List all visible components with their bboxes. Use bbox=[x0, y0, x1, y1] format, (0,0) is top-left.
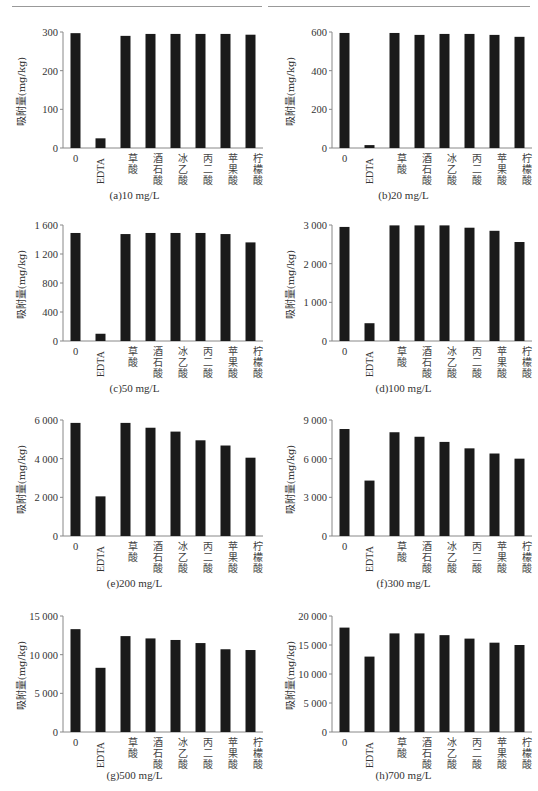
bar bbox=[246, 650, 256, 732]
svg-text:果: 果 bbox=[497, 552, 507, 563]
svg-text:酒: 酒 bbox=[153, 737, 163, 748]
x-tick-label: 0 bbox=[73, 346, 78, 357]
svg-text:果: 果 bbox=[228, 552, 238, 563]
chart-panel-h: 吸附量(mg/kg) 05 00010 00015 00020 0000EDTA… bbox=[269, 598, 538, 788]
bar bbox=[121, 234, 131, 341]
svg-text:柠: 柠 bbox=[253, 540, 263, 552]
y-tick-label: 6 000 bbox=[303, 454, 327, 465]
svg-text:EDTA: EDTA bbox=[95, 741, 106, 768]
svg-text:石: 石 bbox=[422, 552, 432, 563]
svg-text:石: 石 bbox=[422, 164, 432, 175]
x-tick-label: 苹果酸 bbox=[228, 540, 238, 574]
svg-text:EDTA: EDTA bbox=[95, 350, 106, 377]
svg-text:0: 0 bbox=[73, 346, 78, 357]
svg-text:酒: 酒 bbox=[153, 153, 163, 164]
x-tick-label: 酒石酸 bbox=[153, 737, 163, 770]
svg-text:苹: 苹 bbox=[228, 540, 238, 552]
svg-text:草: 草 bbox=[397, 153, 407, 164]
x-tick-label: 草酸 bbox=[128, 346, 138, 368]
svg-text:EDTA: EDTA bbox=[364, 157, 375, 184]
svg-text:丙: 丙 bbox=[472, 737, 482, 748]
bar-chart: 05 00010 00015 0000EDTA草酸酒石酸冰乙酸丙二酸苹果酸柠檬酸 bbox=[0, 598, 269, 774]
svg-text:酸: 酸 bbox=[497, 367, 507, 379]
x-tick-label: 草酸 bbox=[397, 346, 407, 368]
svg-text:檬: 檬 bbox=[522, 748, 532, 759]
bar bbox=[515, 37, 525, 148]
svg-text:石: 石 bbox=[153, 748, 163, 759]
panel-caption: (d)100 mg/L bbox=[269, 382, 538, 394]
x-tick-label: EDTA bbox=[95, 545, 106, 572]
svg-text:柠: 柠 bbox=[522, 345, 532, 357]
bar bbox=[71, 629, 81, 732]
y-tick-label: 400 bbox=[42, 307, 58, 318]
bar bbox=[96, 138, 106, 148]
bar bbox=[490, 231, 500, 341]
chart-panel-e: 吸附量(mg/kg) 02 0004 0006 0000EDTA草酸酒石酸冰乙酸… bbox=[0, 402, 269, 592]
svg-text:二: 二 bbox=[472, 748, 482, 759]
svg-text:酒: 酒 bbox=[422, 153, 432, 164]
svg-text:苹: 苹 bbox=[228, 736, 238, 748]
svg-text:檬: 檬 bbox=[522, 164, 532, 175]
svg-text:石: 石 bbox=[153, 164, 163, 175]
svg-text:酸: 酸 bbox=[153, 174, 163, 186]
svg-text:丙: 丙 bbox=[203, 346, 213, 357]
y-tick-label: 0 bbox=[53, 143, 58, 154]
svg-text:酸: 酸 bbox=[153, 367, 163, 379]
svg-text:酒: 酒 bbox=[422, 737, 432, 748]
svg-text:草: 草 bbox=[397, 541, 407, 552]
svg-text:二: 二 bbox=[203, 164, 213, 175]
x-tick-label: 丙二酸 bbox=[472, 153, 482, 186]
bar bbox=[440, 635, 450, 732]
bar bbox=[196, 643, 206, 732]
y-tick-label: 800 bbox=[42, 278, 58, 289]
top-rule-left bbox=[12, 6, 262, 7]
svg-text:乙: 乙 bbox=[178, 748, 188, 759]
bar bbox=[515, 645, 525, 732]
svg-text:酸: 酸 bbox=[447, 367, 457, 379]
svg-text:果: 果 bbox=[228, 357, 238, 368]
svg-text:酸: 酸 bbox=[128, 551, 138, 563]
svg-text:二: 二 bbox=[472, 552, 482, 563]
x-tick-label: 丙二酸 bbox=[472, 346, 482, 379]
svg-text:酸: 酸 bbox=[128, 747, 138, 759]
x-tick-label: 苹果酸 bbox=[497, 540, 507, 574]
svg-text:酸: 酸 bbox=[397, 747, 407, 759]
x-tick-label: 草酸 bbox=[397, 541, 407, 563]
panel-caption: (f)300 mg/L bbox=[269, 577, 538, 589]
svg-text:苹: 苹 bbox=[497, 540, 507, 552]
svg-text:酸: 酸 bbox=[397, 551, 407, 563]
svg-text:二: 二 bbox=[472, 164, 482, 175]
bar bbox=[121, 36, 131, 148]
svg-text:冰: 冰 bbox=[447, 345, 457, 357]
y-tick-label: 200 bbox=[42, 66, 58, 77]
bar bbox=[340, 227, 350, 341]
x-tick-label: 苹果酸 bbox=[497, 736, 507, 770]
svg-text:柠: 柠 bbox=[522, 540, 532, 552]
bar bbox=[71, 233, 81, 341]
bar bbox=[490, 35, 500, 148]
bar bbox=[440, 34, 450, 148]
svg-text:0: 0 bbox=[342, 346, 347, 357]
svg-text:酸: 酸 bbox=[397, 163, 407, 175]
svg-text:酸: 酸 bbox=[522, 562, 532, 574]
y-tick-label: 0 bbox=[322, 143, 327, 154]
x-tick-label: 柠檬酸 bbox=[253, 152, 263, 186]
x-tick-label: 冰乙酸 bbox=[447, 152, 457, 186]
svg-text:乙: 乙 bbox=[447, 164, 457, 175]
svg-text:冰: 冰 bbox=[178, 152, 188, 164]
svg-text:乙: 乙 bbox=[447, 552, 457, 563]
svg-text:酸: 酸 bbox=[447, 174, 457, 186]
svg-text:EDTA: EDTA bbox=[364, 545, 375, 572]
panel-caption: (h)700 mg/L bbox=[269, 769, 538, 781]
svg-text:酸: 酸 bbox=[228, 562, 238, 574]
bar bbox=[246, 242, 256, 341]
bar bbox=[146, 34, 156, 148]
bar bbox=[121, 423, 131, 536]
x-tick-label: 丙二酸 bbox=[472, 541, 482, 574]
y-tick-label: 10 000 bbox=[29, 650, 58, 661]
svg-text:EDTA: EDTA bbox=[95, 157, 106, 184]
bar bbox=[365, 145, 375, 148]
y-tick-label: 0 bbox=[322, 727, 327, 738]
y-tick-label: 0 bbox=[322, 531, 327, 542]
x-tick-label: 0 bbox=[73, 541, 78, 552]
